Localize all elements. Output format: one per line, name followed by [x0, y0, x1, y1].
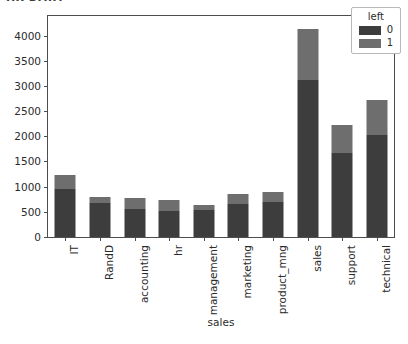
- bar-group[interactable]: [262, 192, 283, 237]
- x-axis-tick: [308, 237, 309, 241]
- x-axis-tick: [169, 237, 170, 241]
- bar-segment[interactable]: [159, 211, 180, 237]
- y-axis-tick: [44, 187, 48, 188]
- chart-figure: HR DATA 05001000150020002500300035004000…: [0, 0, 408, 344]
- x-axis-tick: [273, 237, 274, 241]
- x-axis-tick-label: IT: [69, 245, 80, 255]
- x-axis-title: sales: [47, 316, 395, 328]
- bar-segment[interactable]: [332, 153, 353, 237]
- y-axis-tick: [44, 86, 48, 87]
- y-axis-tick-label: 1500: [14, 156, 41, 167]
- y-axis-tick: [44, 161, 48, 162]
- bar-segment[interactable]: [55, 175, 76, 189]
- bar-segment[interactable]: [159, 200, 180, 211]
- bar-segment[interactable]: [332, 125, 353, 153]
- plot-axes: 05001000150020002500300035004000ITRandDa…: [47, 15, 395, 238]
- bar-segment[interactable]: [193, 210, 214, 237]
- bar-segment[interactable]: [124, 209, 145, 237]
- bar-group[interactable]: [228, 194, 249, 237]
- bar-group[interactable]: [124, 198, 145, 237]
- x-axis-tick: [65, 237, 66, 241]
- x-axis-tick: [238, 237, 239, 241]
- x-axis-tick-label: product_mng: [277, 245, 288, 314]
- bar-segment[interactable]: [262, 192, 283, 202]
- y-axis-tick-label: 4000: [14, 30, 41, 41]
- y-axis-tick: [44, 136, 48, 137]
- legend-items: 01: [359, 25, 393, 48]
- bar-group[interactable]: [55, 175, 76, 237]
- x-axis-tick-label: accounting: [139, 245, 150, 303]
- bar-segment[interactable]: [89, 203, 110, 237]
- bar-segment[interactable]: [297, 80, 318, 237]
- bar-group[interactable]: [159, 200, 180, 237]
- x-axis-tick: [342, 237, 343, 241]
- bar-segment[interactable]: [262, 202, 283, 237]
- x-axis-tick-label: technical: [381, 245, 392, 293]
- legend-title: left: [359, 12, 393, 22]
- x-axis-tick-label: RandD: [104, 245, 115, 280]
- bar-segment[interactable]: [366, 135, 387, 237]
- y-axis-tick-label: 3500: [14, 56, 41, 67]
- x-axis-tick-label: support: [346, 245, 357, 285]
- legend-swatch: [359, 39, 381, 48]
- x-axis-tick-label: hr: [173, 245, 184, 256]
- bar-group[interactable]: [366, 100, 387, 237]
- bar-segment[interactable]: [228, 194, 249, 204]
- legend-entry-label: 0: [387, 25, 393, 35]
- x-axis-tick: [377, 237, 378, 241]
- y-axis-tick-label: 2000: [14, 131, 41, 142]
- plot-area: 05001000150020002500300035004000ITRandDa…: [48, 16, 394, 237]
- legend-entry-label: 1: [387, 38, 393, 48]
- x-axis-tick: [100, 237, 101, 241]
- x-axis-tick-label: sales: [312, 245, 323, 272]
- bar-group[interactable]: [297, 29, 318, 237]
- y-axis-tick: [44, 237, 48, 238]
- y-axis-tick-label: 1000: [14, 181, 41, 192]
- bar-segment[interactable]: [228, 204, 249, 237]
- y-axis-tick-label: 2500: [14, 106, 41, 117]
- bar-group[interactable]: [332, 125, 353, 237]
- x-axis-tick: [204, 237, 205, 241]
- x-axis-tick: [135, 237, 136, 241]
- bar-group[interactable]: [89, 197, 110, 237]
- y-axis-tick: [44, 61, 48, 62]
- bar-segment[interactable]: [124, 198, 145, 208]
- clipped-title-text: HR DATA: [6, 0, 62, 3]
- bar-segment[interactable]: [55, 189, 76, 237]
- y-axis-tick: [44, 111, 48, 112]
- y-axis-tick-label: 500: [21, 207, 41, 218]
- y-axis-tick: [44, 212, 48, 213]
- legend-entry[interactable]: 1: [359, 38, 393, 48]
- legend-entry[interactable]: 0: [359, 25, 393, 35]
- bar-segment[interactable]: [297, 29, 318, 80]
- x-axis-tick-label: management: [208, 245, 219, 315]
- x-axis-tick-label: marketing: [242, 245, 253, 299]
- y-axis-tick: [44, 36, 48, 37]
- legend-swatch: [359, 26, 381, 35]
- bar-segment[interactable]: [366, 100, 387, 135]
- y-axis-tick-label: 0: [34, 232, 41, 243]
- bar-group[interactable]: [193, 205, 214, 237]
- y-axis-tick-label: 3000: [14, 81, 41, 92]
- chart-legend[interactable]: left 01: [351, 7, 401, 54]
